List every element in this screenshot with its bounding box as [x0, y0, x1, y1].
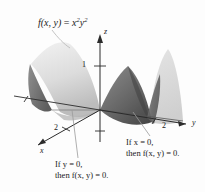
axis-z: [94, 34, 106, 142]
axis-label-z: z: [104, 27, 107, 37]
annotation-if-x-zero-line2: then f(x, y) = 0.: [126, 148, 179, 159]
tick-label-z-1: 1: [82, 60, 86, 70]
plot-title: f(x, y) = x2y2: [38, 16, 87, 30]
title-y-exp: 2: [84, 16, 87, 23]
annotation-if-y-zero: If y = 0, then f(x, y) = 0.: [55, 159, 108, 180]
axis-label-y: y: [192, 118, 196, 128]
title-equals: =: [64, 17, 70, 28]
tick-label-x-2: 2: [54, 123, 58, 133]
title-args: (x, y): [41, 17, 62, 28]
annotation-if-y-zero-line1: If y = 0,: [55, 159, 108, 170]
axis-label-x: x: [40, 146, 44, 156]
annotation-if-y-zero-line2: then f(x, y) = 0.: [55, 170, 108, 181]
tick-label-y-2: 2: [162, 121, 166, 131]
figure-container: f(x, y) = x2y2 z y x 1 2 2 If y = 0, the…: [0, 0, 205, 192]
annotation-if-x-zero: If x = 0, then f(x, y) = 0.: [126, 137, 179, 158]
annotation-if-x-zero-line1: If x = 0,: [126, 137, 179, 148]
